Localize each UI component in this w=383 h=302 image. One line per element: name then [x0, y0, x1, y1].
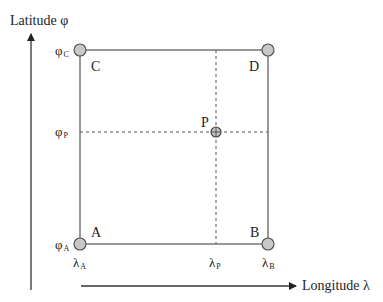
node-d	[262, 44, 274, 56]
longitude-tick-p-symbol: λ	[209, 255, 215, 270]
latitude-axis-label: Latitude φ	[10, 14, 68, 28]
latitude-tick-c-sub: C	[64, 50, 69, 59]
grid-cell-rectangle	[80, 50, 268, 244]
latitude-tick-a-sub: A	[64, 244, 70, 253]
latitude-tick-c: φC	[55, 44, 69, 59]
latitude-tick-p: φP	[55, 125, 68, 140]
longitude-tick-p: λP	[209, 256, 221, 271]
longitude-tick-b-symbol: λ	[262, 255, 268, 270]
corner-label-c: C	[91, 60, 100, 74]
corner-label-a: A	[91, 226, 101, 240]
node-a	[74, 238, 86, 250]
point-label-p: P	[201, 116, 209, 130]
latitude-tick-a-symbol: φ	[55, 237, 63, 252]
longitude-tick-p-sub: P	[216, 262, 220, 271]
latitude-tick-p-symbol: φ	[55, 124, 63, 139]
corner-label-d: D	[249, 60, 259, 74]
latitude-tick-p-sub: P	[64, 131, 68, 140]
latitude-tick-a: φA	[55, 238, 69, 253]
corner-label-b: B	[250, 226, 259, 240]
node-b	[262, 238, 274, 250]
longitude-tick-b: λB	[262, 256, 275, 271]
longitude-tick-b-sub: B	[269, 262, 274, 271]
node-c	[74, 44, 86, 56]
latitude-tick-c-symbol: φ	[55, 43, 63, 58]
longitude-tick-a-sub: A	[80, 262, 86, 271]
longitude-tick-a: λA	[73, 256, 86, 271]
longitude-tick-a-symbol: λ	[73, 255, 79, 270]
longitude-axis-label: Longitude λ	[302, 279, 370, 293]
